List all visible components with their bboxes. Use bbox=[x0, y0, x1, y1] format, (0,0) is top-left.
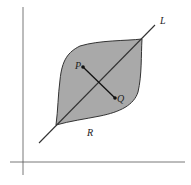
diagram-canvas: L P Q R bbox=[0, 0, 191, 185]
label-p: P bbox=[74, 60, 81, 71]
label-l: L bbox=[159, 15, 166, 26]
label-r: R bbox=[86, 127, 93, 138]
label-q: Q bbox=[117, 93, 125, 104]
point-p-dot bbox=[81, 65, 85, 69]
